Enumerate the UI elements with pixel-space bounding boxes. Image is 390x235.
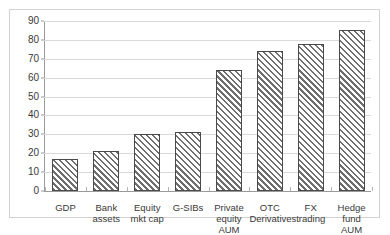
x-axis-label: Private equity AUM (209, 202, 250, 235)
bar[interactable] (216, 70, 242, 191)
y-tick-mark-30 (41, 134, 44, 135)
y-tick-mark-0 (41, 191, 44, 192)
y-tick-label-0: 0 (33, 186, 39, 196)
x-axis-labels-group: GDPBank assetsEquity mkt capG-SIBsPrivat… (45, 202, 372, 235)
y-tick-label-40: 40 (28, 110, 39, 120)
chart-frame: 0102030405060708090 GDPBank assetsEquity… (9, 9, 380, 218)
bars-group (45, 21, 371, 191)
x-axis-label: Equity mkt cap (127, 202, 168, 224)
y-tick-label-70: 70 (28, 54, 39, 64)
bar[interactable] (257, 51, 283, 191)
bar[interactable] (52, 159, 78, 191)
bar-slot (168, 21, 209, 191)
y-tick-label-60: 60 (28, 73, 39, 83)
y-tick-mark-40 (41, 115, 44, 116)
bar-slot (127, 21, 168, 191)
x-axis-label: G-SIBs (168, 202, 209, 213)
x-axis-label: GDP (45, 202, 86, 213)
x-tick-mark (86, 187, 87, 191)
bar-slot (86, 21, 127, 191)
y-tick-mark-70 (41, 58, 44, 59)
bar[interactable] (175, 132, 201, 191)
bar-slot (209, 21, 250, 191)
x-tick-mark (372, 187, 373, 191)
bar-slot (331, 21, 372, 191)
x-tick-mark (290, 187, 291, 191)
x-tick-mark (45, 187, 46, 191)
bar[interactable] (134, 134, 160, 191)
x-axis-label: OTC Derivatives (249, 202, 290, 224)
y-tick-label-30: 30 (28, 129, 39, 139)
x-tick-mark (209, 187, 210, 191)
y-tick-mark-10 (41, 172, 44, 173)
y-tick-mark-50 (41, 96, 44, 97)
y-tick-label-50: 50 (28, 92, 39, 102)
y-tick-label-10: 10 (28, 167, 39, 177)
x-tick-mark (127, 187, 128, 191)
x-axis-label: Bank assets (86, 202, 127, 224)
bar-slot (45, 21, 86, 191)
y-tick-mark-60 (41, 77, 44, 78)
bar[interactable] (339, 30, 365, 191)
x-tick-mark (249, 187, 250, 191)
x-axis-label: Hedge fund AUM (331, 202, 372, 235)
bar[interactable] (93, 151, 119, 191)
y-tick-label-90: 90 (28, 16, 39, 26)
bar-slot (290, 21, 331, 191)
y-tick-mark-20 (41, 153, 44, 154)
bar-slot (249, 21, 290, 191)
gridline-0 (44, 191, 371, 192)
y-tick-mark-80 (41, 39, 44, 40)
plot-area: 0102030405060708090 (44, 21, 371, 191)
y-tick-label-20: 20 (28, 148, 39, 158)
x-tick-mark (168, 187, 169, 191)
bar[interactable] (298, 44, 324, 191)
y-tick-mark-90 (41, 21, 44, 22)
y-tick-label-80: 80 (28, 35, 39, 45)
x-tick-mark (331, 187, 332, 191)
x-axis-label: FX trading (290, 202, 331, 224)
